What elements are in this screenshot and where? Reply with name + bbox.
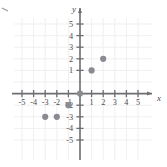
data-point: [65, 102, 71, 108]
y-tick-label-pos3: 3: [69, 43, 73, 52]
x-axis-arrow-icon: [147, 92, 152, 96]
data-point: [100, 56, 106, 62]
data-point: [77, 91, 83, 97]
y-tick-label-pos5: 5: [69, 20, 73, 29]
y-tick-label-pos1: 1: [69, 66, 73, 75]
x-tick-label-neg5: -5: [19, 98, 26, 107]
y-tick-label-neg5: -5: [66, 136, 73, 145]
x-tick-label-neg3: -3: [42, 98, 49, 107]
data-point: [54, 114, 60, 120]
data-points: [42, 56, 106, 120]
x-axis-label: x: [156, 93, 161, 103]
scatter-plot: -5 -4 -3 -2 -1 1 2 3 4 5 5 4 3 2 1 -2 -3…: [0, 0, 167, 167]
corner-mark: [2, 8, 8, 11]
y-tick-label-neg3: -3: [66, 113, 73, 122]
y-axis-label: y: [71, 4, 76, 14]
x-tick-label-neg2: -2: [53, 98, 60, 107]
data-point: [42, 114, 48, 120]
coordinate-plane-figure: -5 -4 -3 -2 -1 1 2 3 4 5 5 4 3 2 1 -2 -3…: [0, 0, 167, 167]
y-tick-label-neg4: -4: [66, 124, 73, 133]
data-point: [89, 67, 95, 73]
x-tick-label-pos4: 4: [124, 98, 128, 107]
y-axis-arrow-icon: [78, 8, 82, 13]
y-tick-label-pos4: 4: [69, 32, 73, 41]
x-tick-label-pos1: 1: [90, 98, 94, 107]
x-tick-label-pos2: 2: [101, 98, 105, 107]
x-tick-label-neg4: -4: [30, 98, 37, 107]
grid-lines: [14, 18, 152, 160]
x-tick-label-pos3: 3: [113, 98, 117, 107]
x-tick-label-pos5: 5: [136, 98, 140, 107]
y-tick-label-pos2: 2: [69, 55, 73, 64]
